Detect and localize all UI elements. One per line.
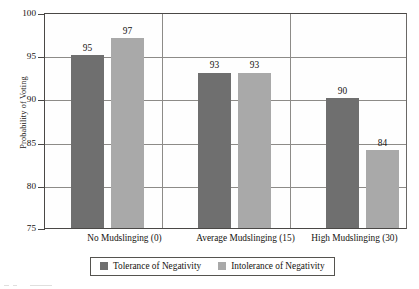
bar-group-container: 95 97 93 93 90 84 — [45, 14, 406, 228]
y-tick-75 — [38, 229, 45, 230]
bar-g0-s1: 97 — [111, 38, 144, 228]
y-tick-label-80: 80 — [27, 182, 36, 191]
y-tick-label-90: 90 — [27, 96, 36, 105]
bar-value-g1-s0: 93 — [210, 61, 219, 70]
y-axis-title: Probability of Voting — [19, 43, 28, 183]
y-tick-90 — [38, 100, 45, 101]
chart-legend: Tolerance of Negativity Intolerance of N… — [90, 257, 335, 276]
bar-g2-s1: 84 — [366, 150, 399, 228]
scan-artifact — [4, 281, 78, 286]
legend-item-intolerance: Intolerance of Negativity — [218, 262, 324, 271]
bar-g0-s0: 95 — [71, 55, 104, 228]
bar-g1-s1: 93 — [238, 73, 271, 229]
bar-value-g0-s0: 95 — [83, 44, 92, 53]
y-tick-85 — [38, 144, 45, 145]
legend-label-series-0: Tolerance of Negativity — [113, 262, 201, 271]
legend-label-series-1: Intolerance of Negativity — [231, 262, 324, 271]
y-tick-label-95: 95 — [27, 53, 36, 62]
legend-item-tolerance: Tolerance of Negativity — [100, 262, 201, 271]
bar-chart-figure: Probability of Voting 100 95 90 85 80 75… — [0, 0, 419, 289]
y-tick-100 — [38, 14, 45, 15]
y-tick-label-100: 100 — [22, 9, 36, 18]
plot-area: 100 95 90 85 80 75 95 97 93 93 90 — [44, 13, 407, 229]
y-tick-95 — [38, 57, 45, 58]
y-tick-80 — [38, 187, 45, 188]
bar-value-g0-s1: 97 — [123, 27, 132, 36]
y-tick-label-75: 75 — [27, 224, 36, 233]
bar-value-g2-s1: 84 — [378, 139, 387, 148]
y-tick-label-85: 85 — [27, 139, 36, 148]
bar-value-g2-s0: 90 — [338, 87, 347, 96]
category-label-2: High Mudslinging (30) — [290, 234, 419, 243]
legend-swatch-icon-series-0 — [100, 262, 108, 270]
bar-value-g1-s1: 93 — [250, 61, 259, 70]
bar-g1-s0: 93 — [198, 73, 231, 229]
legend-swatch-icon-series-1 — [218, 262, 226, 270]
bar-g2-s0: 90 — [326, 98, 359, 228]
